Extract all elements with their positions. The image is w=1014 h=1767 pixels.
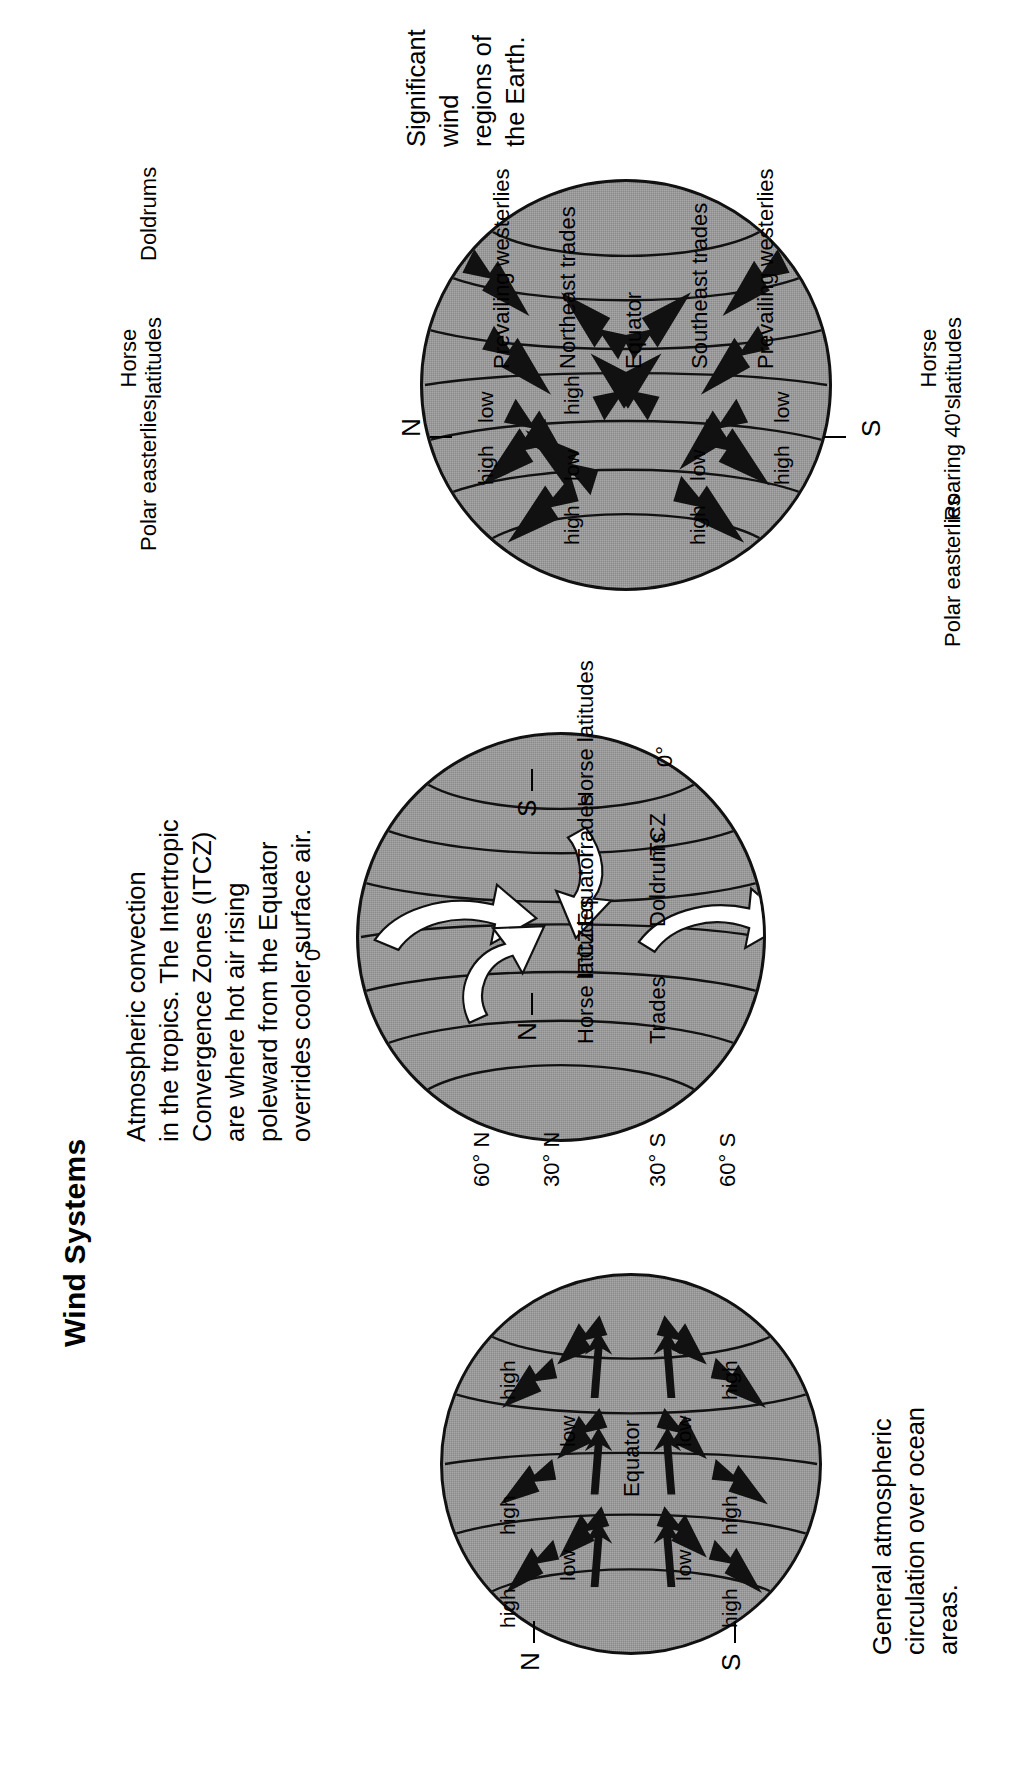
middle-globe-caption: Atmospheric convection in the tropics. T… xyxy=(120,819,318,1142)
right-globe-outer-doldrums: Doldrums xyxy=(136,167,161,261)
middle-globe-lat-30s: 30° S xyxy=(646,1133,670,1187)
left-globe-label-low-s: low xyxy=(672,1549,696,1581)
left-globe-label-high-n2: high xyxy=(496,1495,520,1535)
middle-globe-pole-n-tick xyxy=(531,993,533,1015)
middle-globe-zone-itcz-s: ITCZ xyxy=(646,813,670,862)
right-globe-outer-polar-easterlies-n: Polar easterlies xyxy=(136,399,161,551)
right-globe-label-low-2: low xyxy=(560,449,584,481)
middle-globe-lat-60n: 60° N xyxy=(470,1132,494,1187)
middle-globe-arrow-label-0-bottom: 0° xyxy=(652,746,677,767)
left-globe-pole-n-tick xyxy=(533,1621,535,1643)
right-globe-caption: Significant wind regions of the Earth. xyxy=(400,0,532,147)
middle-globe-zone-horse-latitudes-s: Horse latitudes xyxy=(574,660,598,807)
right-globe-label-southeast-trades: Southeast trades xyxy=(688,203,712,369)
right-globe-label-high-4: high xyxy=(686,505,710,545)
left-globe-label-high-n3: high xyxy=(496,1360,520,1400)
left-globe-pole-s-tick xyxy=(734,1621,736,1643)
right-globe-pole-n: N xyxy=(396,418,427,437)
right-globe-label-high-5: high xyxy=(770,445,794,485)
middle-globe-zone-trades-n: Trades xyxy=(646,976,670,1044)
left-globe-label-high-n1: high xyxy=(496,1588,520,1628)
left-globe-label-high-s1: high xyxy=(718,1588,742,1628)
right-globe-label-prevailing-westerlies-n: Prevailing westerlies xyxy=(490,168,514,369)
middle-globe-pole-n: N xyxy=(512,1022,543,1041)
right-globe-pole-s-tick xyxy=(824,436,846,438)
left-globe-label-low-n: low xyxy=(556,1549,580,1581)
right-globe-label-high-3: high xyxy=(560,375,584,415)
left-globe-label-high-s3: high xyxy=(718,1360,742,1400)
right-globe-outer-horse-latitudes-n: Horse latitudes xyxy=(116,317,166,399)
right-globe-outer-polar-easterlies-s: Polar easterlies xyxy=(940,495,965,647)
right-globe-outer-horse-latitudes-s: Horse latitudes xyxy=(916,317,966,399)
right-globe-label-high-2: high xyxy=(560,505,584,545)
page-title: Wind Systems xyxy=(58,1139,92,1347)
middle-globe-lines xyxy=(359,735,763,1139)
middle-globe-pole-s: S xyxy=(512,800,543,817)
right-globe-label-low-1: low xyxy=(474,391,498,423)
middle-globe-lat-30n: 30° N xyxy=(540,1132,564,1187)
right-globe-pole-n-tick xyxy=(430,436,452,438)
right-globe-label-equator: Equator xyxy=(622,292,646,369)
middle-globe-pole-s-tick xyxy=(531,769,533,791)
right-globe-label-low-4: low xyxy=(770,391,794,423)
diagram-canvas: Wind Systems xyxy=(0,0,1014,1767)
left-globe-caption: General atmospheric circulation over oce… xyxy=(866,1407,965,1655)
middle-globe-zone-itcz-n: ITCZ xyxy=(574,929,598,978)
right-globe-label-low-3: low xyxy=(686,449,710,481)
left-globe-label-high-s2: high xyxy=(718,1495,742,1535)
right-globe-label-northeast-trades: Northeast trades xyxy=(556,206,580,369)
middle-globe xyxy=(356,732,766,1142)
rotated-page-wrapper: Wind Systems xyxy=(0,0,1014,1767)
left-globe-label-low-n2: low xyxy=(556,1415,580,1447)
left-globe-pole-s: S xyxy=(716,1654,747,1671)
right-globe-pole-s: S xyxy=(856,420,887,437)
left-globe-pole-n: N xyxy=(515,1652,546,1671)
right-globe-label-prevailing-westerlies-s: Prevailing westerlies xyxy=(754,168,778,369)
right-globe-label-high-1: high xyxy=(474,445,498,485)
left-globe-label-low-s2: low xyxy=(672,1415,696,1447)
left-globe-equator-label: Equator xyxy=(620,1420,644,1497)
middle-globe-lat-60s: 60° S xyxy=(716,1133,740,1187)
